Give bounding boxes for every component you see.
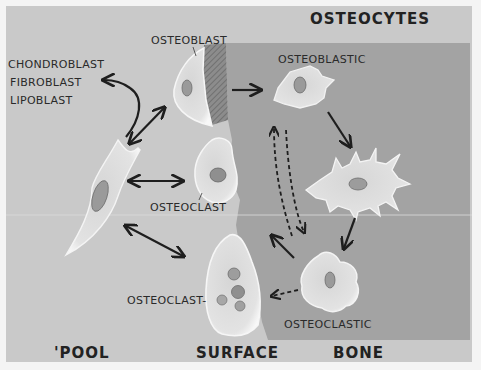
nucleus: [210, 168, 226, 182]
nucleus: [294, 77, 306, 93]
label-fibroblast: FIBROBLAST: [10, 76, 82, 89]
nucleus: [182, 80, 192, 96]
label-chondroblast: CHONDROBLAST: [8, 58, 104, 71]
label-osteoclast-bottom: OSTEOCLAST-: [127, 294, 207, 307]
nucleus: [325, 272, 335, 288]
nucleus: [349, 178, 367, 190]
label-lipoblast: LIPOBLAST: [10, 94, 73, 107]
label-pool: 'POOL: [54, 344, 110, 362]
nucleus: [217, 295, 227, 305]
nucleus: [228, 268, 240, 280]
nucleus: [235, 301, 245, 311]
nucleus: [232, 286, 245, 299]
label-osteocytes: OSTEOCYTES: [310, 10, 430, 28]
label-osteoblastic: OSTEOBLASTIC: [278, 53, 366, 66]
diagram-svg: OSTEOCYTES OSTEOBLAST CHONDROBLAST FIBRO…: [0, 0, 481, 370]
label-osteoclast-top: OSTEOCLAST: [150, 201, 226, 214]
diagram-canvas: OSTEOCYTES OSTEOBLAST CHONDROBLAST FIBRO…: [0, 0, 481, 370]
label-bone: BONE: [333, 344, 384, 362]
label-osteoblast: OSTEOBLAST: [151, 34, 227, 47]
label-surface: SURFACE: [196, 344, 279, 362]
label-osteoclastic: OSTEOCLASTIC: [284, 318, 372, 331]
